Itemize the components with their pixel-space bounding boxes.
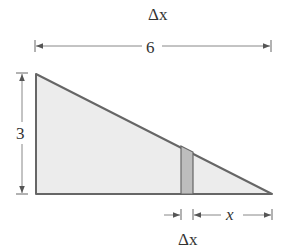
width-label: 6 (146, 38, 155, 57)
width-dimension: 6 (35, 38, 271, 57)
bottom-dimension: x (164, 205, 272, 224)
delta-x-strip (181, 146, 193, 194)
bottom-delta-x-label: Δx (178, 230, 198, 249)
height-dimension: 3 (16, 73, 28, 194)
height-label: 3 (16, 124, 25, 143)
triangle (36, 74, 272, 194)
top-delta-x-label: Δx (148, 5, 168, 24)
triangle-diagram: Δx 6 3 x Δx (0, 0, 284, 251)
x-label: x (225, 205, 234, 224)
